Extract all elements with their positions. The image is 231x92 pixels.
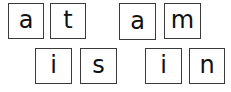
letter-tile: n <box>189 48 225 84</box>
letter: a <box>19 8 34 32</box>
letter-tile: m <box>164 3 201 39</box>
letter-tile: i <box>145 48 182 84</box>
letter-tile: s <box>80 48 117 84</box>
letter: i <box>160 53 167 77</box>
letter: t <box>63 8 72 32</box>
letter: s <box>92 53 105 77</box>
letter-tile: a <box>8 3 44 39</box>
letter: n <box>199 53 214 77</box>
letter: i <box>50 53 57 77</box>
letter-tile: a <box>119 3 156 40</box>
letter-tile: i <box>35 48 72 84</box>
letter: m <box>171 8 194 32</box>
letter-tile: t <box>50 3 86 39</box>
letter: a <box>130 9 145 33</box>
